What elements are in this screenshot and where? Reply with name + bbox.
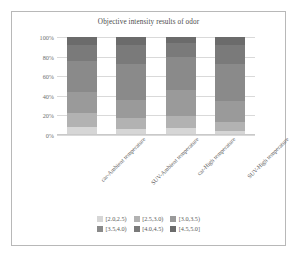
legend-swatch-icon — [97, 226, 103, 232]
chart-title: Objective intensity results of odor — [12, 18, 285, 26]
plot-area: 0%20%40%60%80%100% — [57, 37, 255, 135]
legend-label: [4.5,5.0] — [179, 225, 200, 232]
y-axis-tick-label: 20% — [43, 112, 54, 119]
bar-2[interactable] — [116, 37, 146, 135]
bar-segment[interactable] — [215, 45, 245, 64]
bar-segment[interactable] — [215, 64, 245, 101]
legend-swatch-icon — [97, 216, 103, 222]
y-axis-tick-label: 60% — [43, 73, 54, 80]
legend-label: [2.0,2.5) — [106, 215, 127, 222]
bar-segment[interactable] — [116, 37, 146, 45]
bar-segment[interactable] — [67, 61, 97, 92]
bar-segment[interactable] — [116, 64, 146, 100]
bar-segment[interactable] — [116, 45, 146, 64]
bar-4[interactable] — [215, 37, 245, 135]
legend-item[interactable]: [3.5,4.0) — [97, 225, 127, 232]
y-axis-tick-label: 100% — [40, 34, 54, 41]
x-axis-labels: car-Ambient temperatureSUV-Ambient tempe… — [57, 136, 255, 208]
bar-segment[interactable] — [166, 90, 196, 116]
legend-swatch-icon — [170, 226, 176, 232]
legend-row: [3.5,4.0)[4.0,4.5)[4.5,5.0] — [12, 225, 285, 232]
chart-legend: [2.0,2.5)[2.5,3.0)[3.0,3.5)[3.5,4.0)[4.0… — [12, 215, 285, 235]
bar-segment[interactable] — [67, 45, 97, 61]
x-axis-label-4: SUV-High temperature — [247, 136, 291, 180]
bar-segment[interactable] — [116, 118, 146, 129]
bar-segment[interactable] — [67, 37, 97, 45]
legend-label: [4.0,4.5) — [142, 225, 163, 232]
legend-label: [3.5,4.0) — [106, 225, 127, 232]
legend-swatch-icon — [134, 226, 140, 232]
legend-item[interactable]: [2.0,2.5) — [97, 215, 127, 222]
chart-frame: Objective intensity results of odor 0%20… — [11, 11, 286, 246]
bar-segment[interactable] — [67, 113, 97, 127]
legend-swatch-icon — [134, 216, 140, 222]
bar-1[interactable] — [67, 37, 97, 135]
y-axis-tick-label: 80% — [43, 53, 54, 60]
legend-label: [2.5,3.0) — [142, 215, 163, 222]
x-axis-label-3: car-High temperature — [196, 136, 237, 177]
x-axis-line — [57, 134, 255, 135]
legend-item[interactable]: [4.0,4.5) — [134, 225, 164, 232]
legend-label: [3.0,3.5) — [179, 215, 200, 222]
legend-swatch-icon — [170, 216, 176, 222]
bar-segment[interactable] — [166, 57, 196, 90]
legend-item[interactable]: [4.5,5.0] — [170, 225, 200, 232]
bar-segment[interactable] — [166, 43, 196, 57]
legend-item[interactable]: [2.5,3.0) — [134, 215, 164, 222]
bar-segment[interactable] — [116, 100, 146, 119]
legend-item[interactable]: [3.0,3.5) — [170, 215, 200, 222]
bar-segment[interactable] — [67, 92, 97, 114]
y-axis-tick-label: 40% — [43, 92, 54, 99]
bar-3[interactable] — [166, 37, 196, 135]
bar-segment[interactable] — [215, 101, 245, 123]
y-axis-tick-label: 0% — [46, 132, 54, 139]
legend-row: [2.0,2.5)[2.5,3.0)[3.0,3.5) — [12, 215, 285, 222]
bar-segment[interactable] — [215, 122, 245, 131]
bar-segment[interactable] — [166, 116, 196, 128]
x-axis-label-1: car-Ambient temperature — [99, 136, 146, 183]
chart-figure: Objective intensity results of odor 0%20… — [0, 0, 299, 259]
bar-segment[interactable] — [215, 37, 245, 45]
x-axis-label-2: SUV-Ambient temperature — [150, 136, 200, 186]
